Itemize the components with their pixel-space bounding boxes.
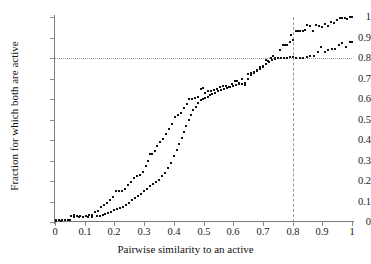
data-point [341,42,343,44]
data-point [97,210,99,212]
data-point [250,74,252,76]
data-point [140,193,142,195]
data-point [229,86,231,88]
data-point [197,102,199,104]
data-point [309,55,311,57]
data-point [136,175,138,177]
y-tick-label: 0.7 [325,74,371,84]
y-tick [50,79,55,80]
data-point [336,19,338,21]
x-tick-label: 1 [337,226,367,237]
data-point [188,119,190,121]
x-tick-label: 0.3 [129,226,159,237]
data-point [313,55,315,57]
data-point [219,86,221,88]
data-point [165,133,167,135]
data-point [195,106,197,108]
data-point [112,196,114,198]
data-point [99,215,101,217]
horizontal-threshold [55,58,352,59]
data-point [312,30,314,32]
data-point [247,73,249,75]
data-point [338,44,340,46]
data-point [134,197,136,199]
data-point [87,216,89,218]
x-tick-label: 0.5 [189,226,219,237]
data-point [137,195,139,197]
data-point [177,114,179,116]
data-point [173,155,175,157]
data-point [159,141,161,143]
data-point [69,219,71,221]
data-point [204,92,206,94]
data-point [346,18,348,20]
data-point [170,162,172,164]
data-point [128,202,130,204]
data-point [122,206,124,208]
y-tick-label: 0.2 [325,176,371,186]
data-point [107,212,109,214]
data-point [156,145,158,147]
plot-area [55,17,352,222]
data-point [60,220,62,222]
data-point [55,220,57,222]
data-point [70,215,72,217]
y-tick-label: 0.4 [325,135,371,145]
data-point [247,78,249,80]
data-point [190,114,192,116]
y-tick [50,202,55,203]
data-point [124,188,126,190]
data-point [155,181,157,183]
y-tick-label: 0.1 [325,197,371,207]
x-tick-label: 0.7 [248,226,278,237]
data-point [324,51,326,53]
data-point [327,25,329,27]
data-point [317,51,319,53]
data-point [125,204,127,206]
data-point [194,97,196,99]
data-point [226,87,228,89]
data-point [274,58,276,60]
data-point [259,68,261,70]
x-axis-title: Pairwise similarity to an active [0,243,371,255]
data-point [143,190,145,192]
data-point [116,208,118,210]
data-point [202,87,204,89]
data-point [223,88,225,90]
data-point [334,48,336,50]
data-point [330,21,332,23]
data-point [192,109,194,111]
x-tick-label: 0.8 [278,226,308,237]
data-point [292,56,294,58]
data-point [151,153,153,155]
data-point [171,123,173,125]
data-point [174,116,176,118]
y-tick-label: 0.3 [325,156,371,166]
data-point [324,23,326,25]
y-tick-label: 0.5 [325,115,371,125]
data-point [280,57,282,59]
data-point [176,149,178,151]
data-point [106,202,108,204]
data-point [331,48,333,50]
data-point [241,83,243,85]
data-point [271,59,273,61]
data-point [185,125,187,127]
vertical-threshold [293,17,294,222]
data-point [283,57,285,59]
data-point [211,93,213,95]
data-point [118,190,120,192]
data-point [183,131,185,133]
data-point [100,206,102,208]
data-point [162,138,164,140]
data-point [235,84,237,86]
data-point [210,90,212,92]
data-point [102,214,104,216]
data-point [142,171,144,173]
data-point [289,41,291,43]
data-point [186,103,188,105]
data-point [110,211,112,213]
y-tick-label: 0.6 [325,94,371,104]
data-point [306,24,308,26]
data-point [304,29,306,31]
